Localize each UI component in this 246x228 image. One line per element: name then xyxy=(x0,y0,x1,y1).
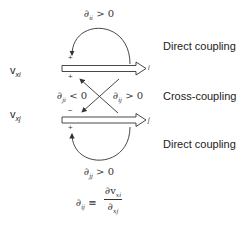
diagram-canvas xyxy=(0,0,246,228)
cross-left-label: ∂ji < 0 xyxy=(57,90,87,103)
node-j: j xyxy=(148,116,150,123)
bottom-loop-sign: + xyxy=(68,123,73,132)
fraction-denominator: ∂xj xyxy=(104,200,122,214)
cross-sign-bottom: − xyxy=(68,106,73,115)
arrow-j xyxy=(62,114,146,127)
label-direct-coupling-top: Direct coupling xyxy=(163,40,236,52)
arrow-i xyxy=(62,62,146,75)
cross-right-label: ∂ij > 0 xyxy=(113,90,143,103)
variable-vxi: vxi xyxy=(10,64,21,78)
label-cross-coupling: Cross-coupling xyxy=(163,90,236,102)
definition-fraction: ∂vxi ∂xj xyxy=(104,185,122,214)
variable-vxj: vxj xyxy=(10,108,21,122)
bottom-loop-label: ∂jj > 0 xyxy=(84,166,114,179)
fraction-numerator: ∂vxi xyxy=(104,185,122,200)
top-loop-sign: + xyxy=(68,53,73,62)
top-loop-arc xyxy=(72,28,130,64)
top-loop-label: ∂ii > 0 xyxy=(84,8,114,21)
cross-sign-top: + xyxy=(68,72,73,81)
node-i: i xyxy=(148,64,150,71)
label-direct-coupling-bottom: Direct coupling xyxy=(163,138,236,150)
bottom-loop-arc xyxy=(72,127,130,160)
definition-lhs: ∂ij ≡ xyxy=(76,197,97,210)
